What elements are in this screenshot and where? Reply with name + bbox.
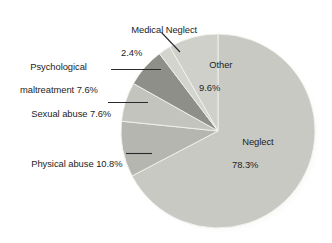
slice-label-medical-neglect-value: 2.4% bbox=[121, 47, 197, 59]
slice-label-neglect-value: 78.3% bbox=[232, 159, 274, 171]
slice-label-other-value: 9.6% bbox=[199, 82, 232, 94]
slice-label-neglect-name: Neglect bbox=[242, 136, 273, 147]
slice-label-medical-neglect: Medical Neglect 2.4% bbox=[121, 12, 197, 82]
slice-label-other-name: Other bbox=[209, 59, 232, 70]
slice-label-neglect: Neglect 78.3% bbox=[232, 124, 274, 194]
slice-label-other: Other 9.6% bbox=[199, 47, 232, 117]
slice-label-sexual-abuse-text: Sexual abuse 7.6% bbox=[31, 108, 111, 119]
slice-label-physical-abuse: Physical abuse 10.8% bbox=[21, 146, 122, 181]
slice-label-physical-abuse-text: Physical abuse 10.8% bbox=[31, 158, 122, 169]
slice-label-psychological-line2: maltreatment 7.6% bbox=[20, 84, 98, 96]
slice-label-psychological-line1: Psychological bbox=[30, 61, 87, 72]
slice-label-medical-neglect-name: Medical Neglect bbox=[131, 24, 197, 35]
pie-chart: Medical Neglect 2.4% Psychological maltr… bbox=[0, 0, 332, 243]
slice-label-sexual-abuse: Sexual abuse 7.6% bbox=[21, 96, 111, 131]
